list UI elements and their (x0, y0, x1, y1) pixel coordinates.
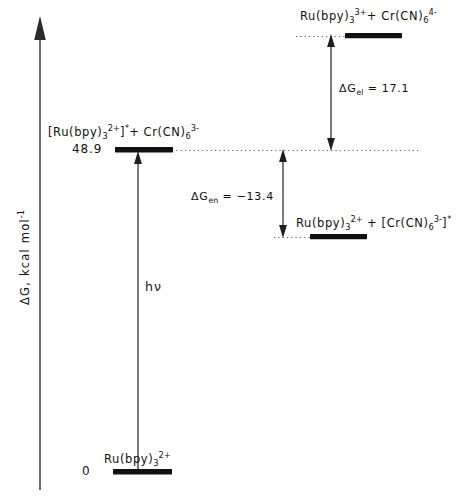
level-label-excited-ru: [Ru(bpy)32+]*+ Cr(CN)63- (48, 124, 199, 141)
delta-g-el-arrow (327, 34, 335, 151)
level-bars (113, 33, 402, 474)
y-axis-label: ΔG, kcal mol-1 (16, 210, 32, 305)
delta-g-en-arrow (279, 149, 287, 238)
absorption-arrow (134, 151, 142, 469)
guide-lines (172, 37, 418, 238)
diagram-graphics (0, 0, 473, 498)
absorption-label: hν (145, 279, 162, 294)
y-axis-label-text: ΔG, kcal mol-1 (18, 210, 32, 305)
level-label-electron-transfer: Ru(bpy)33++ Cr(CN)64- (300, 8, 437, 25)
level-bar-energy-transfer (310, 234, 367, 239)
delta-g-el-label: ΔGel = 17.1 (339, 82, 409, 97)
level-value-excited-ru: 48.9 (72, 142, 102, 156)
level-label-ground: Ru(bpy)32+ (104, 451, 171, 468)
level-value-ground: 0 (82, 464, 91, 478)
delta-g-en-label: ΔGen = −13.4 (191, 190, 274, 205)
level-bar-excited-ru (115, 147, 173, 152)
y-axis (34, 16, 46, 490)
level-bar-ground (113, 469, 172, 474)
energy-level-diagram: ΔG, kcal mol-1 Ru(bpy)33++ Cr(CN)64- [Ru… (0, 0, 473, 498)
level-bar-electron-transfer (345, 33, 402, 38)
level-label-energy-transfer: Ru(bpy)32+ + [Cr(CN)63-]* (296, 215, 451, 232)
